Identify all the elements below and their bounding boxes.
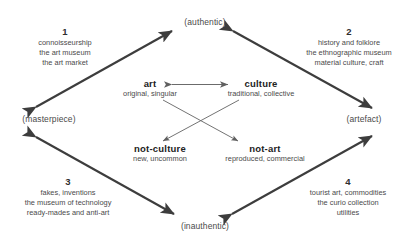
quadrant-1-line-1: connoisseurship xyxy=(6,38,124,48)
quadrant-4-lines: tourist art, commodities the curio colle… xyxy=(286,188,410,217)
term-culture-head: culture xyxy=(208,78,314,89)
term-block-culture: culture traditional, collective xyxy=(208,78,314,98)
term-not-art-head: not-art xyxy=(208,143,322,154)
term-block-art: art original, singular xyxy=(104,78,196,98)
quadrant-1-number: 1 xyxy=(6,26,124,37)
quadrant-4-line-2: the curio collection xyxy=(286,198,410,208)
quadrant-2-number: 2 xyxy=(288,26,410,37)
term-not-culture-sub: new, uncommon xyxy=(110,155,210,164)
quadrant-2-line-1: history and folklore xyxy=(288,38,410,48)
quadrant-2-line-2: the ethnographic museum xyxy=(288,48,410,58)
quadrant-block-1: 1 connoisseurship the art museum the art… xyxy=(6,26,124,68)
quadrant-2-line-3: material culture, craft xyxy=(288,58,410,68)
quadrant-3-number: 3 xyxy=(2,176,134,187)
quadrant-block-4: 4 tourist art, commodities the curio col… xyxy=(286,176,410,218)
quadrant-4-number: 4 xyxy=(286,176,410,187)
pole-label-artefact: (artefact) xyxy=(318,114,410,124)
quadrant-3-line-1: fakes, inventions xyxy=(2,188,134,198)
term-not-culture-head: not-culture xyxy=(110,143,210,154)
quadrant-4-line-1: tourist art, commodities xyxy=(286,188,410,198)
semiotic-square-diagram: (authentic) (masterpiece) (artefact) (in… xyxy=(0,0,410,247)
quadrant-3-line-3: ready-mades and anti-art xyxy=(2,208,134,218)
pole-label-masterpiece: (masterpiece) xyxy=(0,114,98,124)
quadrant-block-3: 3 fakes, inventions the museum of techno… xyxy=(2,176,134,218)
term-art-sub: original, singular xyxy=(104,90,196,99)
pole-label-inauthentic: (inauthentic) xyxy=(0,221,410,231)
quadrant-block-2: 2 history and folklore the ethnographic … xyxy=(288,26,410,68)
term-not-art-sub: reproduced, commercial xyxy=(208,155,322,164)
quadrant-1-line-2: the art museum xyxy=(6,48,124,58)
quadrant-3-lines: fakes, inventions the museum of technolo… xyxy=(2,188,134,217)
term-block-not-culture: not-culture new, uncommon xyxy=(110,143,210,163)
quadrant-1-line-3: the art market xyxy=(6,58,124,68)
quadrant-2-lines: history and folklore the ethnographic mu… xyxy=(288,38,410,67)
term-art-head: art xyxy=(104,78,196,89)
term-block-not-art: not-art reproduced, commercial xyxy=(208,143,322,163)
quadrant-1-lines: connoisseurship the art museum the art m… xyxy=(6,38,124,67)
quadrant-3-line-2: the museum of technology xyxy=(2,198,134,208)
term-culture-sub: traditional, collective xyxy=(208,90,314,99)
quadrant-4-line-3: utilities xyxy=(286,208,410,218)
